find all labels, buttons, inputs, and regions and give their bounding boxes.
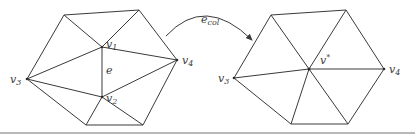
label-v2: v2 — [106, 92, 117, 106]
mesh-edge — [27, 47, 102, 79]
vertex-v3-dot — [26, 78, 29, 81]
mesh-edge — [234, 69, 309, 78]
mesh-after: v* v3 v4 — [218, 10, 400, 124]
label-edge-e: e — [106, 64, 113, 77]
mesh-edge — [102, 60, 177, 97]
label-e-col: ecol — [201, 13, 220, 27]
label-vstar: v* — [320, 53, 330, 67]
vertex-v1-dot — [101, 46, 103, 48]
mesh-edge — [291, 69, 309, 124]
mesh-edge — [309, 69, 348, 124]
label-v1: v1 — [106, 38, 117, 52]
label-v3: v3 — [218, 72, 229, 86]
mesh-before: v1 v2 v3 v4 e — [10, 10, 193, 125]
label-v3: v3 — [10, 73, 21, 87]
mesh-edge — [86, 97, 102, 125]
vertex-v4-dot — [176, 59, 179, 62]
hexagon-outline-after — [234, 10, 384, 124]
edge-collapse-diagram: v1 v2 v3 v4 e ecol v* v3 v4 — [0, 0, 415, 137]
bottom-divider — [0, 132, 415, 134]
collapse-arrow: ecol — [166, 13, 252, 40]
vertex-v4-dot — [383, 68, 386, 71]
vertex-v2-dot — [101, 96, 103, 98]
label-v4: v4 — [389, 63, 400, 77]
mesh-edge — [271, 15, 309, 69]
mesh-edge — [64, 15, 102, 47]
label-v4: v4 — [182, 54, 193, 68]
vertex-vstar-dot — [308, 68, 311, 71]
vertex-v3-dot — [233, 77, 236, 80]
